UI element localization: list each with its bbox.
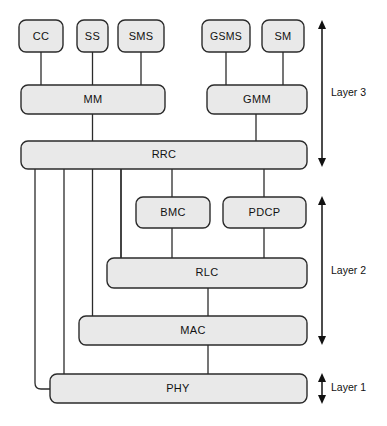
node-mm[interactable]: MM [21, 85, 165, 114]
node-gmm-label: GMM [243, 93, 271, 105]
node-rrc-label: RRC [152, 148, 177, 160]
layer-2-arrow-head-down [318, 336, 326, 345]
layer-1-arrow-head-down [318, 395, 326, 404]
layer-1-label: Layer 1 [331, 381, 366, 393]
layer-annotation-layer: Layer 3 Layer 2 Layer 1 [318, 20, 366, 404]
node-bmc[interactable]: BMC [136, 197, 210, 228]
node-pdcp[interactable]: PDCP [223, 197, 306, 228]
layer-3-annotation: Layer 3 [318, 20, 366, 167]
node-mac[interactable]: MAC [79, 316, 307, 345]
connector-rrc-to-phy-elbow [50, 169, 64, 389]
node-ss-label: SS [85, 30, 100, 42]
node-rlc[interactable]: RLC [107, 258, 307, 288]
node-cc[interactable]: CC [19, 20, 63, 52]
layer-2-arrow-head-up [318, 196, 326, 205]
node-sm[interactable]: SM [262, 20, 304, 52]
layer-1-annotation: Layer 1 [318, 373, 366, 404]
node-sm-label: SM [274, 30, 291, 42]
layer-3-arrow-head-up [318, 20, 326, 29]
protocol-stack-diagram: CC SS SMS GSMS SM MM [0, 0, 387, 426]
node-pdcp-label: PDCP [249, 206, 281, 218]
node-bmc-label: BMC [160, 206, 185, 218]
node-mm-label: MM [84, 93, 103, 105]
node-gsms[interactable]: GSMS [202, 20, 250, 52]
layer-2-annotation: Layer 2 [318, 196, 366, 345]
node-layer: CC SS SMS GSMS SM MM [19, 20, 307, 403]
node-mac-label: MAC [180, 324, 205, 336]
diagram-canvas: CC SS SMS GSMS SM MM [0, 0, 387, 426]
node-rrc[interactable]: RRC [21, 141, 307, 169]
layer-3-label: Layer 3 [331, 86, 366, 98]
node-cc-label: CC [33, 30, 50, 42]
node-rlc-label: RLC [196, 266, 219, 278]
node-sms-label: SMS [129, 30, 154, 42]
layer-1-arrow-head-up [318, 373, 326, 382]
layer-3-arrow-head-down [318, 158, 326, 167]
node-ss[interactable]: SS [77, 20, 108, 52]
node-phy[interactable]: PHY [50, 374, 307, 403]
node-phy-label: PHY [166, 382, 190, 394]
node-gmm[interactable]: GMM [207, 85, 307, 114]
connector-rrc-outer-elbow [35, 169, 50, 389]
layer-2-label: Layer 2 [331, 264, 366, 276]
node-gsms-label: GSMS [210, 30, 242, 42]
node-sms[interactable]: SMS [118, 20, 164, 52]
connector-rrc-to-mac-elbow [79, 169, 93, 331]
